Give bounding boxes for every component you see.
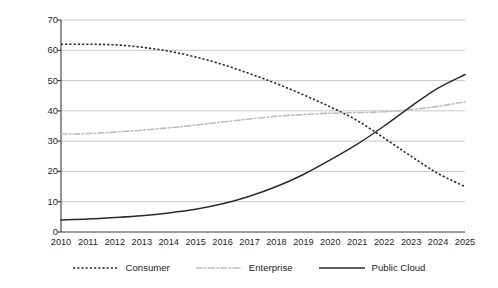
x-tick-label: 2012 [100,236,130,248]
series-line-public-cloud [61,75,465,220]
x-tick-label: 2021 [342,236,372,248]
legend-item-enterprise[interactable]: Enterprise [196,262,293,274]
x-tick-label: 2016 [208,236,238,248]
line-chart: Storage proportion (%) 010203040506070 2… [0,0,498,288]
x-axis-tick-labels: 2010201120122013201420152016201720182019… [0,236,498,252]
chart-legend: ConsumerEnterprisePublic Cloud [0,258,498,278]
legend-label: Public Cloud [372,262,426,274]
x-tick-label: 2010 [46,236,76,248]
x-tick-label: 2013 [127,236,157,248]
legend-item-consumer[interactable]: Consumer [73,262,170,274]
legend-label: Consumer [126,262,170,274]
solid-line-swatch [319,263,365,273]
x-tick-label: 2019 [288,236,318,248]
series-line-consumer [61,44,465,186]
series-line-enterprise [61,102,465,134]
x-tick-label: 2011 [73,236,103,248]
x-tick-label: 2018 [261,236,291,248]
legend-item-public-cloud[interactable]: Public Cloud [319,262,426,274]
x-tick-label: 2015 [181,236,211,248]
x-tick-label: 2014 [154,236,184,248]
x-tick-label: 2020 [315,236,345,248]
dashdot-line-swatch [196,263,242,273]
x-tick-label: 2025 [450,236,480,248]
x-tick-label: 2017 [235,236,265,248]
dotted-line-swatch [73,263,119,273]
legend-label: Enterprise [249,262,293,274]
x-tick-label: 2024 [423,236,453,248]
x-tick-label: 2023 [396,236,426,248]
x-tick-label: 2022 [369,236,399,248]
